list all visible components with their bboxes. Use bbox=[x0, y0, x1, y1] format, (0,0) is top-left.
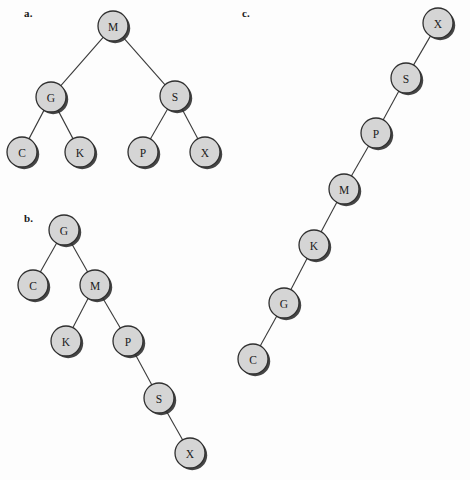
tree-node: X bbox=[190, 137, 222, 169]
node-label: M bbox=[90, 280, 100, 292]
tree-edge bbox=[72, 297, 88, 328]
tree-edge bbox=[60, 37, 104, 87]
node-label: G bbox=[47, 92, 55, 104]
node-label: X bbox=[434, 18, 443, 30]
node-label: P bbox=[373, 128, 379, 140]
tree-edge bbox=[71, 242, 88, 273]
tree-edge bbox=[102, 297, 121, 329]
tree-node: G bbox=[269, 288, 301, 320]
tree-node: K bbox=[51, 326, 83, 358]
tree-node: C bbox=[7, 137, 39, 169]
tree-node: K bbox=[299, 230, 331, 262]
node-label: S bbox=[172, 91, 178, 103]
tree-node: K bbox=[65, 137, 97, 169]
tree-node: M bbox=[329, 174, 361, 206]
tree-edge bbox=[166, 410, 183, 441]
panel-label-a: a. bbox=[24, 7, 33, 19]
tree-node: P bbox=[113, 326, 145, 358]
node-label: X bbox=[186, 448, 195, 460]
node-label: M bbox=[339, 184, 349, 196]
tree-edge bbox=[413, 35, 431, 66]
tree-node: C bbox=[238, 344, 270, 376]
tree-node: S bbox=[160, 81, 192, 113]
tree-edge bbox=[321, 201, 338, 232]
tree-node: X bbox=[175, 438, 207, 470]
node-label: P bbox=[140, 147, 146, 159]
binary-search-tree-diagrams: MGSCKPXGCMKPSXXSPMKGC bbox=[0, 0, 470, 480]
node-label: P bbox=[125, 336, 131, 348]
node-label: C bbox=[18, 147, 26, 159]
tree-node: M bbox=[80, 270, 112, 302]
tree-edge bbox=[58, 109, 74, 139]
tree-edge bbox=[29, 109, 45, 139]
node-label: S bbox=[403, 73, 409, 85]
node-label: G bbox=[60, 225, 68, 237]
tree-edge bbox=[290, 257, 307, 290]
node-label: C bbox=[249, 354, 257, 366]
tree-edge bbox=[351, 145, 369, 177]
node-label: G bbox=[280, 298, 288, 310]
tree-node: P bbox=[361, 118, 393, 150]
tree-node: S bbox=[144, 383, 176, 415]
figure-canvas: MGSCKPXGCMKPSXXSPMKGC a. b. c. bbox=[0, 0, 470, 480]
tree-edge bbox=[182, 108, 199, 139]
panel-label-b: b. bbox=[24, 212, 33, 224]
tree-nodes-b: GCMKPSX bbox=[18, 215, 207, 470]
node-label: X bbox=[201, 147, 210, 159]
tree-edge bbox=[122, 36, 165, 85]
node-label: K bbox=[76, 147, 85, 159]
tree-node: C bbox=[18, 270, 50, 302]
tree-edge bbox=[150, 108, 168, 140]
tree-node: P bbox=[128, 137, 160, 169]
tree-nodes-a: MGSCKPX bbox=[7, 11, 222, 169]
tree-nodes-c: XSPMKGC bbox=[238, 8, 455, 376]
tree-edge bbox=[260, 315, 277, 347]
tree-edge bbox=[40, 242, 57, 273]
node-label: C bbox=[29, 280, 37, 292]
tree-node: G bbox=[49, 215, 81, 247]
node-label: K bbox=[62, 336, 71, 348]
node-label: S bbox=[156, 393, 162, 405]
tree-edge bbox=[383, 90, 400, 120]
tree-node: X bbox=[423, 8, 455, 40]
tree-node: S bbox=[391, 63, 423, 95]
panel-label-c: c. bbox=[242, 7, 250, 19]
node-label: K bbox=[310, 240, 319, 252]
tree-edge bbox=[135, 353, 153, 385]
node-label: M bbox=[108, 21, 118, 33]
tree-node: G bbox=[36, 82, 68, 114]
